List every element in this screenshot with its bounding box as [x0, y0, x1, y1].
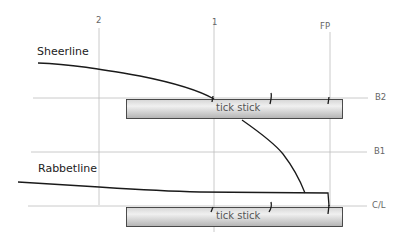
waterline-label-b1: B1	[374, 146, 385, 156]
tick-stick-lower-label: tick stick	[216, 210, 260, 221]
rabbetline-curve	[18, 182, 329, 206]
sheerline-curve	[38, 63, 214, 99]
station-label-1: 1	[212, 17, 217, 27]
rabbetline-label: Rabbetline	[38, 162, 97, 175]
waterline-label-cl: C/L	[372, 200, 386, 210]
lofting-diagram	[0, 0, 403, 241]
sheerline-label: Sheerline	[37, 45, 89, 58]
station-label-fp: FP	[320, 21, 330, 31]
stem-curve	[242, 120, 305, 193]
waterline-label-b2: B2	[375, 92, 386, 102]
station-label-2: 2	[96, 15, 101, 25]
tick-stick-upper-label: tick stick	[216, 102, 260, 113]
